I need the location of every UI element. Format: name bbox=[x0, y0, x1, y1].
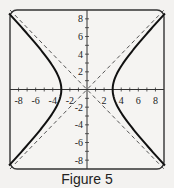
y-tick-label: 8 bbox=[78, 13, 83, 24]
hyperbola-plot: -8-6-4-22468-8-6-4-22468 bbox=[0, 0, 174, 170]
y-tick-label: 2 bbox=[78, 66, 83, 77]
x-tick-label: 4 bbox=[119, 95, 124, 106]
y-tick-label: -8 bbox=[75, 155, 83, 166]
figure-caption: Figure 5 bbox=[0, 171, 174, 187]
x-tick-label: 2 bbox=[102, 95, 107, 106]
x-tick-label: -6 bbox=[31, 95, 39, 106]
x-tick-label: 6 bbox=[136, 95, 141, 106]
y-tick-label: -6 bbox=[75, 137, 83, 148]
y-tick-label: 4 bbox=[78, 49, 83, 60]
y-tick-label: 6 bbox=[78, 31, 83, 42]
x-tick-label: -8 bbox=[14, 95, 22, 106]
y-tick-label: -2 bbox=[75, 102, 83, 113]
x-tick-label: 8 bbox=[153, 95, 158, 106]
x-tick-label: -2 bbox=[66, 95, 74, 106]
x-tick-label: -4 bbox=[49, 95, 57, 106]
y-tick-label: -4 bbox=[75, 119, 83, 130]
